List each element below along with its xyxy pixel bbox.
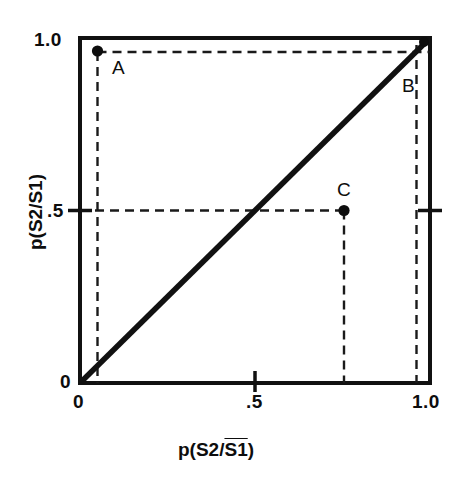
- x-axis-title-overline-part: S1: [224, 439, 247, 460]
- xtick-label-0-5: .5: [246, 392, 263, 411]
- point-label-c: C: [337, 180, 351, 199]
- tick-marks: [68, 211, 442, 393]
- x-axis-title: p(S2/S1): [178, 440, 254, 459]
- figure-container: 1.0 .5 0 0 .5 1.0 A B C p(S2/S1) p(S2/S1…: [0, 0, 473, 484]
- scatter-plot-svg: [0, 0, 473, 484]
- data-points: [92, 37, 429, 216]
- xtick-label-1-0: 1.0: [412, 392, 440, 411]
- point-label-b: B: [402, 76, 415, 95]
- data-point-a[interactable]: [92, 45, 103, 56]
- data-point-c[interactable]: [338, 205, 349, 216]
- y-axis-title: p(S2/S1): [26, 174, 45, 250]
- ytick-label-1-0: 1.0: [34, 30, 62, 49]
- xtick-label-0: 0: [73, 392, 84, 411]
- x-axis-title-suffix: ): [248, 439, 254, 460]
- ytick-label-0-5: .5: [47, 201, 64, 220]
- point-label-a: A: [112, 58, 125, 77]
- data-point-b[interactable]: [419, 37, 429, 47]
- x-axis-title-prefix: p(S2/: [178, 439, 224, 460]
- ytick-label-0: 0: [60, 372, 71, 391]
